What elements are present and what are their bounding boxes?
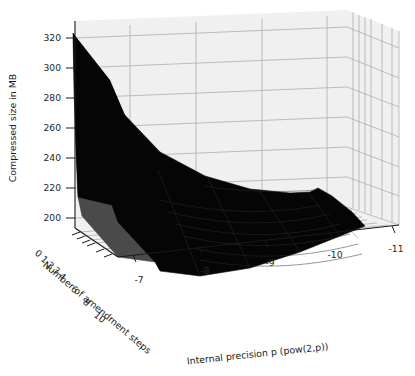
surface-plot-3d: 320 300 280 260 240 220 200 -7 -8 -9 -10… [0,0,415,376]
z-tick-label: 300 [43,62,61,73]
x-axis-label: Internal precision p (pow(2,p)) [186,341,329,367]
x-tick-label: -10 [327,249,342,260]
z-tick-label: 320 [43,32,61,43]
z-tick-label: 280 [43,92,61,103]
x-tick-label: -8 [200,265,209,276]
x-tick-label: -7 [134,274,143,285]
z-tick-label: 240 [43,152,61,163]
x-tick-label: -9 [265,257,274,268]
z-axis-label: Compressed size in MB [7,74,18,182]
z-tick-label: 220 [43,182,61,193]
figure-canvas: 320 300 280 260 240 220 200 -7 -8 -9 -10… [0,0,415,376]
x-tick-label: -11 [388,243,403,254]
z-tick-labels: 320 300 280 260 240 220 200 [43,32,61,223]
pane-back-right [347,10,399,225]
z-tick-label: 200 [43,212,61,223]
z-tick-label: 260 [43,122,61,133]
